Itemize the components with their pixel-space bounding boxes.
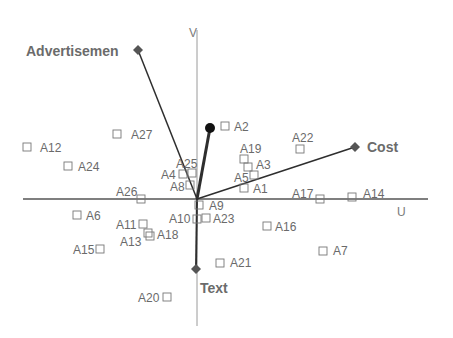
square-marker-icon (216, 259, 224, 267)
square-marker-icon (348, 193, 356, 201)
data-point-a12: A12 (23, 141, 62, 155)
point-label: A21 (230, 256, 252, 270)
point-label: A17 (292, 187, 314, 201)
point-label: A5 (234, 171, 249, 185)
point-label: A24 (78, 160, 100, 174)
point-label: A10 (169, 212, 191, 226)
data-point-a9: A9 (195, 199, 224, 213)
square-marker-icon (146, 232, 154, 240)
square-marker-icon (64, 162, 72, 170)
data-point-a18: A18 (146, 228, 179, 242)
square-marker-icon (221, 122, 229, 130)
square-marker-icon (263, 222, 271, 230)
point-label: A2 (234, 120, 249, 134)
point-label: A18 (157, 228, 179, 242)
vector-line (197, 147, 355, 199)
point-label: A19 (240, 142, 262, 156)
point-label: A20 (138, 291, 160, 305)
circle-marker-icon (205, 123, 215, 133)
point-label: A6 (86, 209, 101, 223)
data-point-a6: A6 (73, 209, 101, 223)
point-label: A16 (275, 220, 297, 234)
data-point-a7: A7 (319, 244, 348, 258)
data-point-a11: A11 (116, 218, 147, 232)
point-label: A11 (116, 218, 137, 232)
vector-line (197, 128, 210, 199)
square-marker-icon (296, 145, 304, 153)
data-point-a2: A2 (221, 120, 249, 134)
square-marker-icon (244, 163, 252, 171)
vector-label: Text (200, 280, 228, 296)
point-label: A1 (253, 182, 268, 196)
data-point-a20: A20 (138, 291, 171, 305)
point-label: A14 (363, 187, 385, 201)
point-label: A23 (213, 212, 235, 226)
square-marker-icon (139, 220, 147, 228)
square-marker-icon (250, 171, 258, 179)
square-marker-icon (144, 229, 152, 237)
data-point-a26: A26 (116, 185, 145, 203)
data-point-a24: A24 (64, 160, 100, 174)
square-marker-icon (319, 247, 327, 255)
vector-unlabeled (197, 123, 215, 199)
point-label: A13 (120, 235, 142, 249)
biplot-diagram: UV AdvertisemenCostText A1A2A3A4A5A6A7A8… (0, 0, 453, 338)
point-label: A9 (209, 199, 224, 213)
square-marker-icon (163, 293, 171, 301)
diamond-marker-icon (350, 142, 360, 152)
point-label: A8 (170, 180, 185, 194)
point-label: A27 (131, 128, 153, 142)
data-point-a22: A22 (292, 131, 314, 153)
point-label: A3 (256, 158, 271, 172)
vector-label: Cost (367, 139, 398, 155)
point-label: A25 (176, 157, 198, 171)
vector-label: Advertisemen (26, 43, 119, 59)
v-axis-label: V (189, 26, 197, 40)
data-point-a21: A21 (216, 256, 252, 270)
point-label: A22 (292, 131, 314, 145)
data-point-a17: A17 (292, 187, 324, 203)
square-marker-icon (73, 211, 81, 219)
data-point-a27: A27 (113, 128, 153, 142)
square-marker-icon (240, 155, 248, 163)
point-label: A7 (333, 244, 348, 258)
point-label: A26 (116, 185, 138, 199)
diamond-marker-icon (191, 264, 201, 274)
u-axis-label: U (397, 205, 406, 219)
vector-line (196, 199, 197, 269)
diamond-marker-icon (133, 45, 143, 55)
square-marker-icon (202, 214, 210, 222)
point-label: A12 (40, 141, 62, 155)
data-points: A1A2A3A4A5A6A7A8A9A10A11A12A13A14A15A16A… (23, 120, 385, 305)
square-marker-icon (113, 130, 121, 138)
data-point-a23: A23 (202, 212, 235, 226)
square-marker-icon (23, 143, 31, 151)
data-point-a16: A16 (263, 220, 297, 234)
point-label: A15 (73, 243, 95, 257)
data-point-a15: A15 (73, 243, 104, 257)
square-marker-icon (96, 245, 104, 253)
